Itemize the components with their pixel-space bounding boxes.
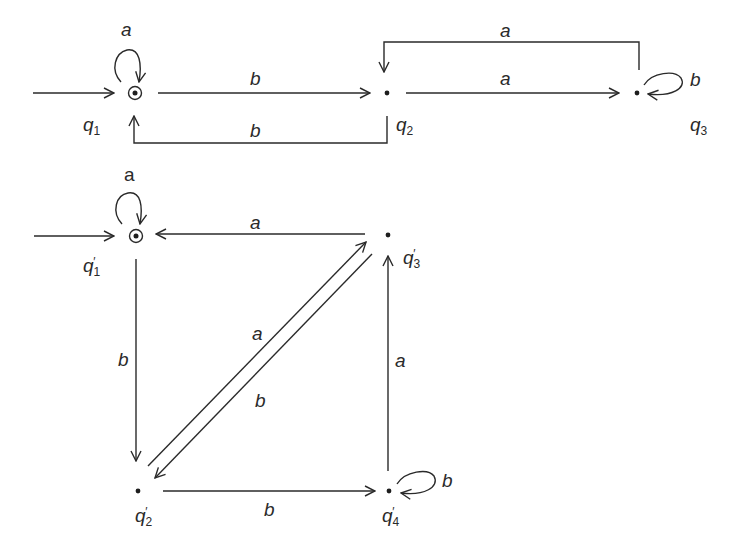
edge-label-q2p-q3p: a [252,323,263,344]
edge-label-q3p-q2p: b [255,390,266,411]
edge-label-loop-q3: b [690,69,701,90]
state-label-q1-prime: q1′ [83,255,101,279]
self-loop-q1p-a [116,193,141,224]
edge-label-loop-q1: a [121,19,132,40]
state-label-q2-prime: q2′ [135,505,153,529]
state-label-q1: q1 [83,114,101,138]
edge-label-q1-q2: b [250,68,261,89]
self-loop-q1-a [115,50,140,82]
state-q3-prime [386,233,391,238]
edge-label-q2-q3: a [500,68,511,89]
state-dot-icon [134,234,139,239]
state-label-q2: q2 [396,114,414,138]
state-dot-icon [133,91,138,96]
state-q4-prime [387,489,392,494]
edge-label-loop-q1p: a [124,164,135,185]
state-label-q3: q3 [690,114,708,138]
diagram-1: q1 a b b q2 a a q3 b [33,19,708,143]
edge-label-loop-q4p: b [442,470,453,491]
edge-label-q3-q2: a [500,20,511,41]
state-q2-prime [136,489,141,494]
state-q1 [129,87,142,100]
self-loop-q4p-b [397,472,435,494]
diagram-2: q1′ a a q3′ b a b a q2′ b q4′ b [34,164,453,529]
edge-q2p-q3p [148,242,366,466]
state-label-q3-prime: q3′ [403,247,421,271]
edge-label-q2-q1: b [250,120,261,141]
edge-label-q4p-q3p: a [395,350,406,371]
self-loop-q3-b [644,73,682,94]
edge-q3p-q2p [155,254,372,478]
edge-label-q2p-q4p: b [264,499,275,520]
state-label-q4-prime: q4′ [382,505,400,529]
state-q3 [635,91,640,96]
edge-q3-q2 [384,42,639,72]
state-q1-prime [130,230,143,243]
automata-diagram: q1 a b b q2 a a q3 b q1′ [0,0,743,557]
edge-label-q3p-q1p: a [250,212,261,233]
edge-label-q1p-q2p: b [118,349,129,370]
state-q2 [385,91,390,96]
